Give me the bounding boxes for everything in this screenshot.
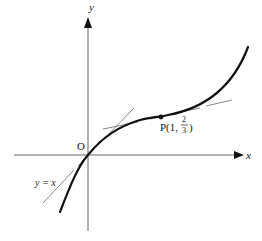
x-axis-arrow-icon <box>234 151 244 159</box>
origin-label: O <box>77 140 85 152</box>
point-p-marker <box>159 115 164 120</box>
x-axis-label: x <box>245 149 251 161</box>
y-axis-label: y <box>88 1 94 13</box>
point-p-label: P(1, <box>160 121 178 134</box>
y-axis-arrow-icon <box>84 17 92 28</box>
point-p-label-close: ) <box>189 121 193 134</box>
tangent-label-origin: y = x <box>34 177 56 188</box>
point-p-frac-num: 2 <box>182 115 186 124</box>
point-p-frac-den: 3 <box>182 126 186 135</box>
graph-canvas: y x O y = x P(1, 2 3 ) <box>0 0 262 241</box>
